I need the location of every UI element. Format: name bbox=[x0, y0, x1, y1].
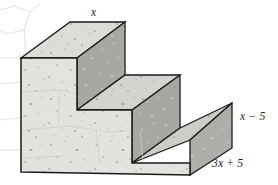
dimension-label-bottom-text: 3x + 5 bbox=[212, 157, 243, 169]
geometry-figure: x x − 5 3x + 5 bbox=[0, 0, 278, 185]
dimension-label-right-text: x − 5 bbox=[240, 110, 265, 122]
dimension-label-right: x − 5 bbox=[240, 110, 265, 122]
dimension-label-top: x bbox=[91, 6, 96, 18]
dimension-label-top-text: x bbox=[91, 6, 96, 18]
dimension-label-bottom: 3x + 5 bbox=[212, 157, 243, 169]
